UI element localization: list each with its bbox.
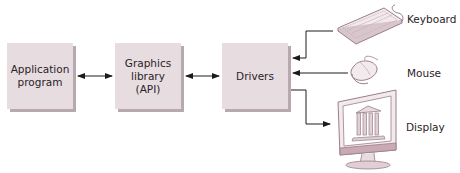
box-label-line: program bbox=[11, 76, 70, 89]
arrow-keyboard-drivers bbox=[293, 31, 333, 58]
keyboard-icon bbox=[338, 5, 403, 44]
box-label-line: Drivers bbox=[236, 70, 274, 83]
mouse-label: Mouse bbox=[407, 67, 441, 79]
box-label-line: Application bbox=[11, 63, 70, 76]
drivers-box: Drivers bbox=[222, 43, 288, 109]
box-label-line: library bbox=[125, 70, 171, 83]
arrow-drivers-display bbox=[289, 90, 330, 124]
mouse-icon bbox=[351, 56, 378, 84]
box-label-line: (API) bbox=[125, 83, 171, 96]
display-label: Display bbox=[406, 121, 445, 133]
application-program-box: Application program bbox=[7, 43, 73, 109]
box-label-line: Graphics bbox=[125, 57, 171, 70]
monitor-icon bbox=[338, 90, 396, 169]
keyboard-label: Keyboard bbox=[407, 13, 456, 25]
graphics-library-box: Graphics library (API) bbox=[115, 43, 181, 109]
